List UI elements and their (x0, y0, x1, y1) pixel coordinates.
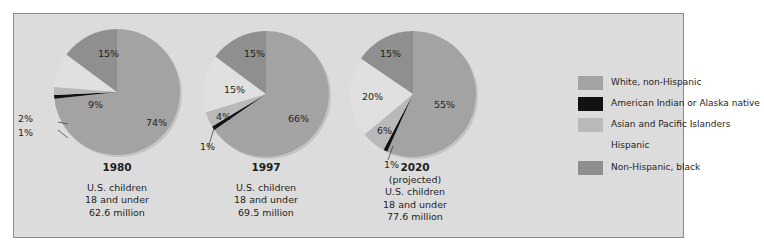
slice-label-hispanic: 9% (88, 99, 103, 110)
slice-label-american-indian-alaska-native: 1% (18, 127, 33, 138)
slice-label-white-non-hispanic: 66% (288, 113, 309, 124)
legend-label: Hispanic (611, 140, 649, 150)
pie-chart-1980: 74%1%2%9%15% (18, 29, 182, 157)
legend-label: White, non-Hispanic (611, 77, 701, 87)
legend-item-black: Non-Hispanic, black (578, 161, 764, 175)
legend-swatch (578, 97, 603, 111)
legend-label: Non-Hispanic, black (611, 162, 700, 172)
slice-label-hispanic: 15% (224, 84, 245, 95)
caption-line: 77.6 million (360, 211, 470, 224)
slice-label-hispanic: 20% (362, 91, 383, 102)
caption-year: 2020 (360, 161, 470, 174)
slice-label-non-hispanic-black: 15% (380, 48, 401, 59)
slice-label-asian-pacific-islanders: 4% (216, 111, 231, 122)
caption-line: U.S. children (62, 182, 172, 195)
slice-label-white-non-hispanic: 74% (146, 117, 167, 128)
legend-label: American Indian or Alaska native (611, 98, 760, 108)
slice-label-non-hispanic-black: 15% (244, 48, 265, 59)
pie-chart-2020: 55%1%6%20%15% (350, 31, 478, 170)
caption-line: U.S. children (211, 182, 321, 195)
legend-swatch (578, 76, 603, 90)
caption-year: 1980 (62, 161, 172, 174)
slice-label-american-indian-alaska-native: 1% (200, 141, 215, 152)
slice-label-asian-pacific-islanders: 6% (377, 125, 392, 136)
caption-year: 1997 (211, 161, 321, 174)
caption-1997: 1997 U.S. children 18 and under 69.5 mil… (211, 161, 321, 219)
caption-line: 18 and under (360, 199, 470, 212)
pie-chart-1997: 66%1%4%15%15% (200, 31, 331, 159)
caption-line: 62.6 million (62, 207, 172, 220)
caption-2020: 2020 (projected) U.S. children 18 and un… (360, 161, 470, 224)
caption-line: 69.5 million (211, 207, 321, 220)
legend-item-white: White, non-Hispanic (578, 76, 764, 90)
caption-line: 18 and under (62, 194, 172, 207)
legend-swatch (578, 118, 603, 132)
legend-label: Asian and Pacific Islanders (611, 119, 730, 129)
legend-swatch (578, 139, 603, 153)
slice-label-white-non-hispanic: 55% (434, 99, 455, 110)
caption-line: 18 and under (211, 194, 321, 207)
legend-swatch (578, 161, 603, 175)
leader-line (58, 130, 68, 138)
slice-label-non-hispanic-black: 15% (98, 48, 119, 59)
legend-item-hispanic: Hispanic (578, 139, 764, 153)
slice-label-asian-pacific-islanders: 2% (18, 113, 33, 124)
caption-line: U.S. children (360, 186, 470, 199)
legend-item-american-indian: American Indian or Alaska native (578, 97, 764, 111)
caption-1980: 1980 U.S. children 18 and under 62.6 mil… (62, 161, 172, 219)
caption-note: (projected) (360, 174, 470, 187)
legend-item-asian: Asian and Pacific Islanders (578, 118, 764, 132)
